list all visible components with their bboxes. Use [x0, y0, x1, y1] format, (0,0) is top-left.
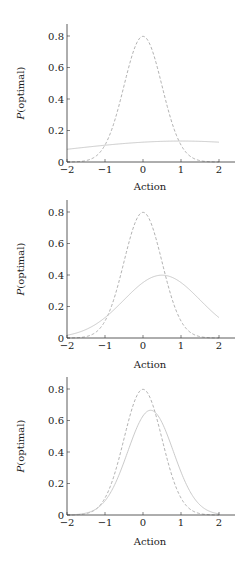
y-tick-label: 0.6 [48, 415, 64, 426]
y-tick-label: 0.2 [48, 125, 64, 136]
solid-curve [67, 410, 219, 515]
y-tick-label: 0.2 [48, 478, 64, 489]
x-tick-label: 2 [216, 164, 222, 175]
x-tick-label: 1 [178, 164, 184, 175]
y-tick-label: 0.4 [48, 270, 64, 281]
y-tick-label: 0 [58, 157, 64, 168]
x-axis-label: Action [133, 536, 167, 547]
y-tick-label: 0 [58, 510, 64, 521]
y-tick-label: 0.8 [48, 31, 64, 42]
y-tick-label: 0.6 [48, 238, 64, 249]
x-tick-label: −1 [98, 340, 113, 351]
chart-2: −2−101200.20.40.60.8ActionP(optimal) [15, 200, 235, 370]
x-tick-label: 0 [140, 340, 146, 351]
chart-stack: −2−101200.20.40.60.8ActionP(optimal) −2−… [0, 0, 246, 569]
x-tick-label: 2 [216, 340, 222, 351]
x-tick-label: 1 [178, 517, 184, 528]
y-tick-label: 0.8 [48, 384, 64, 395]
y-axis-label: P(optimal) [15, 66, 26, 120]
x-tick-label: 0 [140, 164, 146, 175]
y-tick-label: 0.8 [48, 207, 64, 218]
x-tick-label: −1 [98, 164, 113, 175]
dashed-curve [67, 212, 219, 338]
solid-curve [67, 141, 219, 149]
y-tick-label: 0.6 [48, 62, 64, 73]
x-tick-label: 0 [140, 517, 146, 528]
dashed-curve [67, 36, 219, 162]
y-axis-label: P(optimal) [15, 242, 26, 296]
y-axis-label: P(optimal) [15, 419, 26, 473]
y-tick-label: 0.4 [48, 94, 64, 105]
chart-1: −2−101200.20.40.60.8ActionP(optimal) [15, 24, 235, 192]
x-tick-label: 1 [178, 340, 184, 351]
x-axis-label: Action [133, 359, 167, 370]
x-axis-label: Action [133, 181, 167, 192]
y-tick-label: 0.2 [48, 301, 64, 312]
x-tick-label: −1 [98, 517, 113, 528]
x-tick-label: 2 [216, 517, 222, 528]
chart-3: −2−101200.20.40.60.8ActionP(optimal) [15, 377, 235, 547]
y-tick-label: 0.4 [48, 447, 64, 458]
y-tick-label: 0 [58, 333, 64, 344]
dashed-curve [67, 389, 219, 515]
solid-curve [67, 275, 219, 335]
